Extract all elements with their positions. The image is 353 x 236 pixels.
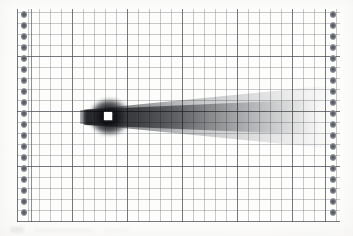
index-dot-icon — [328, 163, 339, 174]
index-dot-icon — [328, 42, 339, 53]
index-dot-icon — [328, 9, 339, 20]
index-dot-icon — [328, 97, 339, 108]
scan-smudge — [34, 229, 94, 232]
index-dot-icon — [19, 9, 30, 20]
index-dot-icon — [328, 174, 339, 185]
scanned-figure: Grayscale scanned plate showing a bright… — [0, 0, 353, 236]
grid-lines — [17, 9, 340, 222]
index-dot-icon — [19, 207, 30, 218]
index-dot-icon — [19, 42, 30, 53]
scan-smudge — [104, 229, 130, 232]
index-dot-icon — [328, 185, 339, 196]
index-dot-icon — [328, 86, 339, 97]
scan-smudge — [10, 227, 24, 233]
left-index-strip — [17, 9, 32, 222]
index-dot-icon — [19, 20, 30, 31]
index-dot-icon — [328, 152, 339, 163]
index-dot-icon — [328, 31, 339, 42]
index-dot-icon — [328, 64, 339, 75]
index-dot-icon — [19, 75, 30, 86]
index-dot-icon — [19, 64, 30, 75]
index-dot-icon — [328, 141, 339, 152]
index-dot-icon — [19, 196, 30, 207]
index-dot-icon — [328, 207, 339, 218]
index-dot-icon — [19, 141, 30, 152]
index-dot-icon — [328, 196, 339, 207]
chart-plate — [17, 9, 340, 222]
index-dot-icon — [19, 130, 30, 141]
index-dot-icon — [19, 97, 30, 108]
index-dot-icon — [328, 75, 339, 86]
index-dot-icon — [328, 53, 339, 64]
index-dot-icon — [328, 20, 339, 31]
index-dot-icon — [19, 152, 30, 163]
index-dot-icon — [19, 119, 30, 130]
right-index-strip — [325, 9, 340, 222]
index-dot-icon — [19, 31, 30, 42]
index-dot-icon — [19, 185, 30, 196]
index-dot-icon — [19, 108, 30, 119]
saturated-source-marker — [104, 112, 112, 120]
index-dot-icon — [328, 108, 339, 119]
index-dot-icon — [19, 163, 30, 174]
index-dot-icon — [19, 86, 30, 97]
index-dot-icon — [19, 174, 30, 185]
index-dot-icon — [328, 119, 339, 130]
index-dot-icon — [19, 53, 30, 64]
index-dot-icon — [328, 130, 339, 141]
